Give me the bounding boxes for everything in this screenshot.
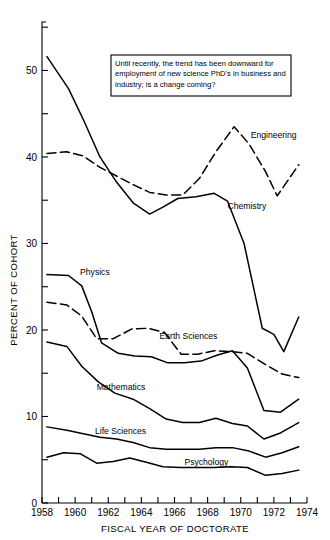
x-tick-label: 1962 [97, 507, 120, 518]
series-label-physics: Physics [80, 267, 110, 277]
series-label-psychology: Psychology [184, 457, 229, 467]
annotation-callout: Until recently, the trend has been downw… [111, 55, 291, 96]
x-tick-label: 1968 [197, 507, 220, 518]
series-label-mathematics: Mathematics [97, 382, 146, 392]
x-tick-label: 1966 [163, 507, 186, 518]
series-label-earth-sciences: Earth Sciences [160, 331, 218, 341]
y-axis-ticks [42, 27, 48, 503]
percent-of-cohort-line-chart: 01020304050 1958196019621964196619681970… [0, 0, 330, 540]
data-series-group [47, 57, 299, 476]
annotation-line: Until recently, the trend has been downw… [115, 59, 274, 68]
series-inline-labels: EngineeringChemistryPhysicsEarth Science… [80, 130, 297, 467]
series-line-life-sciences [47, 427, 299, 457]
series-label-life-sciences: Life Sciences [95, 426, 146, 436]
chart-figure: 01020304050 1958196019621964196619681970… [0, 0, 330, 540]
x-tick-label: 1964 [130, 507, 153, 518]
y-axis-line [42, 22, 46, 503]
series-line-mathematics [47, 342, 299, 439]
y-tick-label: 20 [26, 325, 38, 336]
x-tick-label: 1958 [31, 507, 54, 518]
y-tick-label: 10 [26, 411, 38, 422]
x-axis-title: FISCAL YEAR OF DOCTORATE [101, 523, 249, 534]
x-axis-ticks [42, 497, 307, 503]
x-tick-label: 1960 [64, 507, 87, 518]
x-tick-label: 1970 [230, 507, 253, 518]
series-label-engineering: Engineering [251, 130, 297, 140]
annotation-line: employment of new science PhD's in busin… [115, 69, 286, 78]
x-axis-tick-labels: 195819601962196419661968197019721974 [31, 507, 319, 518]
annotation-line: industry; is a change coming? [115, 80, 215, 89]
y-tick-label: 50 [26, 65, 38, 76]
x-tick-label: 1972 [263, 507, 286, 518]
y-axis-tick-labels: 01020304050 [26, 65, 38, 509]
series-label-chemistry: Chemistry [228, 201, 267, 211]
y-axis-title: PERCENT OF COHORT [8, 234, 19, 346]
y-tick-label: 40 [26, 152, 38, 163]
x-tick-label: 1974 [296, 507, 319, 518]
y-tick-label: 30 [26, 238, 38, 249]
